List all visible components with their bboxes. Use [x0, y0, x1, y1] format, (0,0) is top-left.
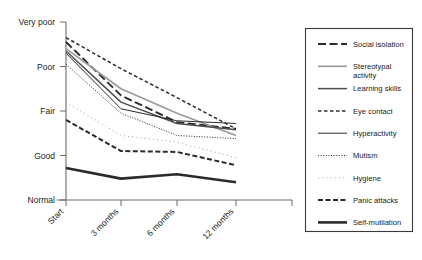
y-axis-ticks [60, 22, 66, 200]
series-layer [66, 38, 236, 183]
legend-label-stereotypal-activity: Stereotypal [353, 62, 392, 71]
legend-label-eye-contact: Eye contact [353, 107, 394, 116]
chart-container: Very poor Poor Fair Good Normal Start 3 … [0, 0, 422, 260]
x-axis-ticks [66, 200, 292, 206]
x-axis-label-3-months: 3 months [89, 206, 121, 238]
x-axis-label-12-months: 12 months [200, 206, 235, 241]
legend-label-self-mutilation: Self-mutilation [353, 218, 401, 227]
legend: Social isolationStereotypalactivityLearn… [318, 40, 404, 227]
y-axis-label-fair: Fair [40, 106, 55, 116]
legend-label-stereotypal-activity: activity [353, 71, 376, 80]
legend-label-hyperactivity: Hyperactivity [353, 129, 397, 138]
x-axis-label-start: Start [46, 206, 66, 226]
legend-label-learning-skills: Learning skills [353, 84, 401, 93]
y-axis-label-good: Good [34, 151, 55, 161]
x-axis-label-6-months: 6 months [145, 206, 177, 238]
line-chart: Very poor Poor Fair Good Normal Start 3 … [0, 0, 422, 260]
y-axis-label-very-poor: Very poor [19, 17, 56, 27]
y-axis-label-normal: Normal [28, 195, 56, 205]
y-axis-label-poor: Poor [37, 62, 55, 72]
legend-label-social-isolation: Social isolation [353, 40, 404, 49]
legend-label-mutism: Mutism [353, 151, 377, 160]
legend-label-panic-attacks: Panic attacks [353, 196, 398, 205]
series-line-self-mutilation [66, 168, 236, 182]
legend-label-hygiene: Hygiene [353, 174, 381, 183]
